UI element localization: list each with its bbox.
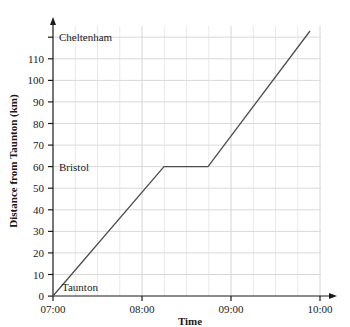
y-tick-label-20: 20	[33, 247, 45, 259]
y-tick-label-90: 90	[33, 96, 45, 108]
y-tick-label-30: 30	[33, 225, 45, 237]
y-axis-ticks	[48, 37, 53, 296]
distance-time-chart: 0 10 20 30 40 50 60 70 80 90 100 110 07:…	[0, 0, 350, 327]
y-tick-label-40: 40	[33, 204, 45, 216]
x-tick-label-0800: 08:00	[129, 303, 155, 315]
chart-page: 0 10 20 30 40 50 60 70 80 90 100 110 07:…	[0, 0, 350, 327]
y-tick-label-110: 110	[28, 53, 45, 65]
y-tick-label-0: 0	[39, 290, 45, 302]
x-axis-arrow	[329, 293, 337, 299]
y-axis-title: Distance from Taunton (km)	[7, 94, 20, 228]
x-tick-label-1000: 10:00	[307, 303, 333, 315]
y-tick-label-80: 80	[33, 118, 45, 130]
x-axis-title: Time	[178, 315, 202, 327]
annotation-label-bristol: Bristol	[59, 161, 89, 173]
y-tick-label-60: 60	[33, 161, 45, 173]
x-axis-ticks	[53, 296, 320, 301]
y-axis-arrow	[50, 17, 56, 25]
y-tick-label-10: 10	[33, 269, 45, 281]
annotation-label-cheltenham: Cheltenham	[59, 31, 113, 43]
x-tick-label-0700: 07:00	[40, 303, 66, 315]
y-tick-label-70: 70	[33, 139, 45, 151]
y-tick-label-100: 100	[28, 74, 45, 86]
annotation-label-taunton: Taunton	[62, 281, 98, 293]
x-tick-label-0900: 09:00	[218, 303, 244, 315]
y-tick-label-50: 50	[33, 182, 45, 194]
